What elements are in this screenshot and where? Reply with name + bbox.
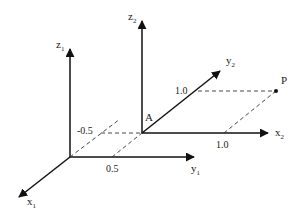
- origin-A-label: A: [145, 111, 153, 123]
- point-P-label: P: [281, 74, 287, 86]
- x1-label: x1: [27, 195, 37, 210]
- z2-label: z2: [128, 10, 137, 25]
- point-P-marker: [274, 89, 278, 93]
- dash-P-to-x2-one: [224, 91, 276, 133]
- tick-y1-0.5: 0.5: [106, 163, 119, 174]
- x1-axis: [19, 157, 70, 197]
- x2-label: x2: [275, 126, 285, 141]
- coordinate-frames-diagram: z1 z2 y2 x2 y1 x1 A P 1.0 1.0 -0.5 0.5: [0, 0, 304, 217]
- tick-x2-1.0: 1.0: [216, 139, 229, 150]
- y1-label: y1: [191, 162, 201, 177]
- dash-half-to-A: [112, 133, 142, 157]
- y2-label: y2: [226, 54, 236, 69]
- frame-2-axes: [142, 21, 268, 133]
- z1-label: z1: [56, 38, 65, 53]
- dashed-guides: [70, 91, 276, 157]
- tick-neg-0.5: -0.5: [77, 125, 93, 136]
- y2-axis: [142, 71, 220, 133]
- tick-y2-1.0: 1.0: [175, 85, 188, 96]
- frame-1-axes: [19, 49, 194, 197]
